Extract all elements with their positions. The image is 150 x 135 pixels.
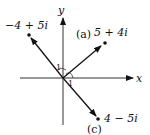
vector-c-point	[96, 117, 100, 121]
y-axis-label: y	[57, 4, 65, 17]
unit-mark-x: 1	[68, 79, 73, 88]
vector-c-tag: (c)	[87, 123, 102, 135]
vector-a-label: 5 + 4i	[94, 26, 128, 39]
vector-b-arrow	[31, 38, 63, 78]
vector-b-label: −4 + 5i	[5, 19, 48, 32]
vector-a-tag: (a)	[76, 28, 91, 41]
complex-plane-diagram: x y (a) 5 + 4i −4 + 5i 4 − 5i (c) 1 1	[0, 0, 150, 135]
x-axis-label: x	[136, 72, 143, 85]
vector-a-arrow	[63, 46, 101, 78]
unit-mark-y: 1	[56, 63, 61, 72]
vector-b-point	[27, 33, 31, 37]
vector-a-point	[103, 41, 107, 45]
vector-c-label: 4 − 5i	[103, 112, 138, 125]
